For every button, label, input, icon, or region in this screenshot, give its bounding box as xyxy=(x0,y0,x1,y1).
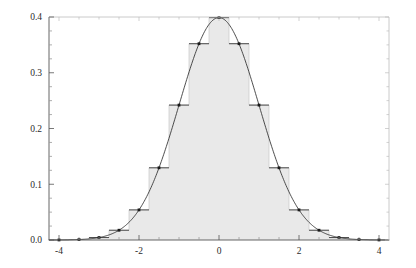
data-point-marker xyxy=(278,166,281,169)
data-point-marker xyxy=(238,42,241,45)
x-tick-label: -4 xyxy=(55,246,63,256)
data-point-marker xyxy=(118,229,121,232)
x-tick-label: 4 xyxy=(377,246,382,256)
y-tick-label: 0.3 xyxy=(30,68,42,78)
data-point-marker xyxy=(178,104,181,107)
normal-distribution-chart: -4-2024 0.00.10.20.30.4 xyxy=(0,0,416,268)
x-tick-label: 2 xyxy=(297,246,302,256)
x-tick-label: -2 xyxy=(135,246,143,256)
data-point-marker xyxy=(138,209,141,212)
x-tick-label: 0 xyxy=(217,246,222,256)
y-tick-label: 0.2 xyxy=(30,124,42,134)
y-tick-label: 0.4 xyxy=(30,12,42,22)
data-point-marker xyxy=(158,166,161,169)
y-tick-label: 0.1 xyxy=(30,180,42,190)
data-point-marker xyxy=(298,209,301,212)
y-tick-label: 0.0 xyxy=(30,235,42,245)
data-point-marker xyxy=(318,229,321,232)
chart-container: -4-2024 0.00.10.20.30.4 xyxy=(0,0,416,268)
data-point-marker xyxy=(198,42,201,45)
data-point-marker xyxy=(258,104,261,107)
